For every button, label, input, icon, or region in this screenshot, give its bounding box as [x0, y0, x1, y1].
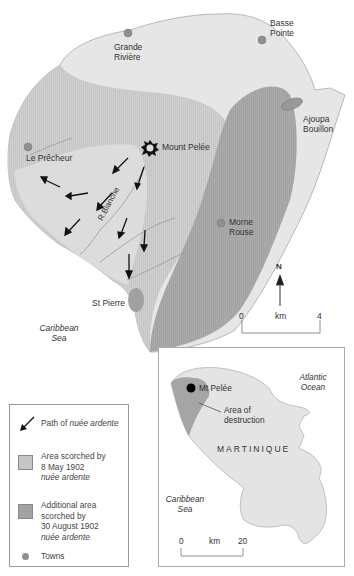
town-label-morne-rouse: MorneRouse: [229, 217, 254, 237]
legend-item-path: Path of nuée ardente: [10, 415, 128, 429]
town-label-basse-pointe: BassePointe: [270, 18, 294, 38]
scale-bar: [242, 320, 320, 333]
destruction-label: Area ofdestruction: [224, 405, 265, 425]
inset-scale-bar: [181, 548, 243, 556]
swatch-dark: [18, 504, 33, 519]
legend: Path of nuée ardente Area scorched by8 M…: [9, 404, 129, 567]
town-label-grande-riviere: GrandeRivière: [114, 42, 142, 62]
town-dot-morne-rouse: [217, 219, 225, 227]
town-dot-le-precheur: [24, 143, 32, 151]
town-label-le-precheur: Le Prêcheur: [26, 153, 72, 163]
town-dot-icon: [22, 553, 29, 560]
scale-end: 4: [317, 311, 322, 321]
mt-pelee-label: Mt Pelée: [199, 383, 232, 393]
north-arrow-icon: [276, 274, 284, 306]
st-pierre-area: [128, 288, 144, 312]
inset-scale-start: 0: [179, 536, 184, 546]
inset-map: AtlanticOcean Mt Pelée Area ofdestructio…: [158, 347, 345, 567]
town-dot-grande-riviere: [124, 29, 132, 37]
scale-start: 0: [239, 311, 244, 321]
north-label: N: [276, 262, 282, 272]
volcano-label: Mount Pelée: [162, 142, 210, 152]
ocean-label: AtlanticOcean: [289, 372, 337, 392]
path-area: [15, 144, 147, 285]
town-label-ajoupa-bouillon: AjoupaBouillon: [303, 114, 333, 134]
inset-sea-label: CaribbeanSea: [161, 494, 209, 514]
inset-scale-unit: km: [209, 536, 220, 546]
town-label-st-pierre: St Pierre: [92, 298, 125, 308]
swatch-light: [18, 455, 33, 470]
scale-unit: km: [275, 311, 286, 321]
mt-pelee-dot: [187, 384, 196, 393]
arrow-icon: [17, 415, 37, 433]
inset-scale-end: 20: [238, 536, 247, 546]
sea-label: CaribbeanSea: [35, 323, 83, 343]
island-label: MARTINIQUE: [217, 444, 290, 454]
town-dot-basse-pointe: [258, 36, 266, 44]
